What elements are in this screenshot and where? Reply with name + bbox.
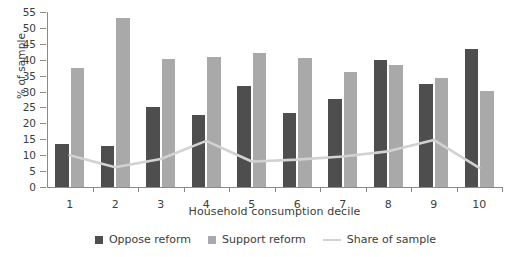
y-tick-label: 20 (6, 117, 36, 129)
y-tick-label: 15 (6, 133, 36, 145)
line-share-of-sample (70, 140, 480, 168)
y-tick (40, 28, 46, 29)
x-tick (366, 187, 367, 192)
y-tick (40, 12, 46, 13)
y-tick-label: 10 (6, 149, 36, 161)
x-tick (502, 187, 503, 192)
y-tick-label: 5 (6, 165, 36, 177)
legend-label: Support reform (222, 233, 306, 246)
y-tick (40, 92, 46, 93)
x-tick (457, 187, 458, 192)
y-tick (40, 187, 46, 188)
y-tick (40, 76, 46, 77)
y-tick (40, 44, 46, 45)
legend-square-swatch-icon (95, 236, 103, 244)
y-tick (40, 155, 46, 156)
y-tick-label: 45 (6, 38, 36, 50)
y-tick (40, 123, 46, 124)
x-tick (184, 187, 185, 192)
y-tick-label: 55 (6, 6, 36, 18)
legend-item[interactable]: Support reform (208, 233, 306, 246)
y-tick (40, 171, 46, 172)
y-tick-label: 35 (6, 70, 36, 82)
x-tick (411, 187, 412, 192)
x-tick (93, 187, 94, 192)
chart-legend: Oppose reformSupport reformShare of samp… (0, 233, 531, 246)
legend-line-swatch-icon (323, 239, 341, 241)
share-of-sample-line (47, 12, 502, 187)
x-tick (229, 187, 230, 192)
y-tick-label: 50 (6, 22, 36, 34)
y-tick (40, 60, 46, 61)
y-tick-label: 40 (6, 54, 36, 66)
y-tick (40, 139, 46, 140)
y-tick-label: 0 (6, 181, 36, 193)
legend-square-swatch-icon (208, 236, 216, 244)
y-tick-label: 25 (6, 101, 36, 113)
x-axis-title: Household consumption decile (47, 205, 502, 218)
legend-label: Oppose reform (109, 233, 191, 246)
x-tick (138, 187, 139, 192)
y-tick (40, 107, 46, 108)
legend-item[interactable]: Oppose reform (95, 233, 191, 246)
x-tick (320, 187, 321, 192)
y-tick-label: 30 (6, 86, 36, 98)
legend-item[interactable]: Share of sample (323, 233, 436, 246)
legend-label: Share of sample (347, 233, 436, 246)
x-tick (275, 187, 276, 192)
chart-container: % of sample 0510152025303540455055 12345… (0, 0, 531, 257)
plot-area: 0510152025303540455055 12345678910 (47, 12, 502, 187)
